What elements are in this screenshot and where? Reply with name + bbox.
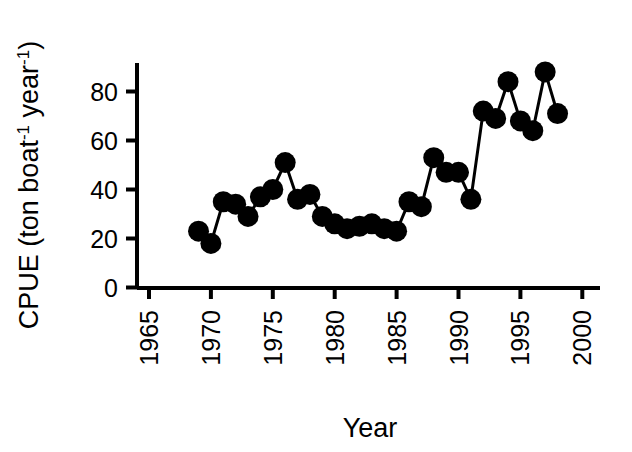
data-point [498, 71, 519, 92]
y-tick-label: 20 [90, 225, 118, 253]
data-point [535, 61, 556, 82]
x-tick-label: 1980 [321, 310, 349, 366]
y-tick-label: 60 [90, 127, 118, 155]
y-axis-title: CPUE (ton boat-1 year-1) [14, 41, 44, 329]
y-axis-title-superscript-2: -1 [14, 50, 33, 65]
data-point [238, 206, 259, 227]
x-tick-label: 1970 [197, 310, 225, 366]
y-tick-label: 0 [104, 274, 118, 302]
data-point [411, 196, 432, 217]
y-axis-title-mid: year [14, 65, 44, 125]
data-point [275, 152, 296, 173]
x-tick-label: 1975 [259, 310, 287, 366]
data-point [299, 184, 320, 205]
data-point [460, 189, 481, 210]
x-tick-label: 1995 [506, 310, 534, 366]
x-axis-title: Year [343, 413, 398, 443]
data-point [262, 179, 283, 200]
data-point [547, 103, 568, 124]
x-tick-label: 1990 [445, 310, 473, 366]
x-tick-label: 2000 [568, 310, 596, 366]
x-tick-label: 1965 [135, 310, 163, 366]
y-axis-title-main: CPUE (ton boat [14, 140, 44, 330]
y-tick-label: 40 [90, 176, 118, 204]
y-axis-title-tail: ) [14, 41, 44, 50]
cpue-line-chart: 020406080 196519701975198019851990199520… [0, 0, 632, 452]
data-point [522, 120, 543, 141]
y-tick-label: 80 [90, 78, 118, 106]
data-point [485, 108, 506, 129]
chart-figure: 020406080 196519701975198019851990199520… [0, 0, 632, 452]
x-tick-label: 1985 [383, 310, 411, 366]
data-point [448, 162, 469, 183]
data-point [200, 233, 221, 254]
data-point [386, 221, 407, 242]
y-axis-title-superscript-1: -1 [14, 125, 33, 140]
